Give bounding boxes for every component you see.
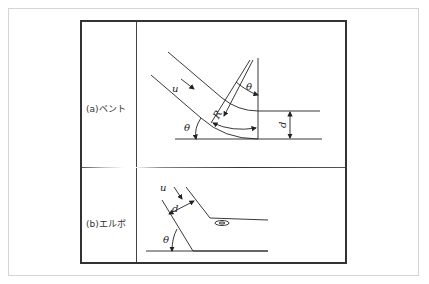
bend-angle-symbol-2: θ [184, 122, 190, 133]
bend-radius-symbol: R [210, 108, 224, 121]
pipe-diagrams: u θ R θ d u d θ [0, 0, 429, 284]
elbow-velocity-symbol: u [160, 182, 166, 193]
elbow-angle-symbol: θ [163, 234, 169, 245]
bend-diameter-symbol: d [277, 122, 288, 128]
bend-diagram [151, 52, 322, 139]
elbow-diameter-symbol: d [172, 203, 178, 214]
bend-angle-symbol: θ [246, 81, 252, 92]
bend-velocity-symbol: u [172, 83, 178, 94]
